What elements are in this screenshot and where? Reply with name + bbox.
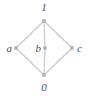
hasse-diagram-figure: 1 a b c 0	[0, 0, 88, 98]
node-a	[14, 46, 17, 49]
edge-b-to-1	[44, 21, 45, 48]
node-b	[43, 46, 46, 49]
node-label-c: c	[77, 43, 82, 54]
node-label-b: b	[36, 43, 42, 54]
node-label-a: a	[7, 43, 13, 54]
edge-0-to-c	[44, 48, 72, 75]
edge-c-to-1	[44, 21, 72, 48]
node-1	[42, 19, 45, 22]
node-0	[42, 73, 45, 76]
edge-0-to-b	[44, 48, 45, 75]
node-label-one: 1	[0, 2, 88, 13]
node-c	[70, 46, 73, 49]
node-label-zero: 0	[0, 82, 88, 93]
